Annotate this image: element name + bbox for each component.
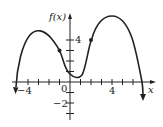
point-neg1-3 bbox=[58, 49, 62, 53]
point-2-4 bbox=[89, 38, 93, 42]
x-tick-label-neg4: −4 bbox=[17, 85, 32, 96]
y-tick-label-neg2: −2 bbox=[53, 98, 68, 109]
y-axis-arrow-icon bbox=[68, 13, 72, 19]
x-axis-label: x bbox=[148, 84, 154, 95]
function-curve bbox=[16, 16, 143, 95]
origin-label: 0 bbox=[61, 83, 67, 94]
y-tick-label-4: 4 bbox=[75, 34, 81, 45]
function-graph: −4 0 4 −2 4 x f(x) bbox=[0, 0, 163, 127]
x-tick-label-4: 4 bbox=[109, 85, 115, 96]
curve-right-arrow-icon bbox=[140, 94, 146, 101]
y-axis-label: f(x) bbox=[48, 11, 66, 22]
